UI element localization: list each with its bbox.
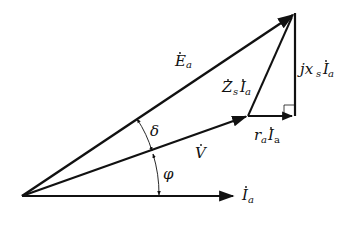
svg-text:a: a	[261, 134, 267, 145]
right-angle-marker	[284, 105, 295, 116]
label-phi: φ	[163, 165, 174, 183]
svg-text:jx: jx	[297, 60, 314, 78]
label-ra-ia: r a I a	[254, 126, 280, 145]
phasor-diagram: E a Z s I a jx s I a r a I a V δ φ I a	[0, 0, 346, 225]
phasor-v	[22, 117, 246, 197]
svg-text:V: V	[195, 144, 208, 162]
svg-text:a: a	[248, 194, 254, 205]
label-zs-ia: Z s I a	[221, 78, 251, 97]
phasor-zs-ia	[248, 17, 292, 116]
svg-text:E: E	[174, 52, 186, 70]
label-jxs-ia: jx s I a	[297, 60, 334, 79]
label-ea: E a	[174, 52, 192, 70]
svg-text:a: a	[186, 59, 192, 70]
svg-text:a: a	[274, 134, 280, 145]
label-ia: I a	[241, 186, 254, 205]
svg-text:a: a	[245, 86, 251, 97]
phi-arc	[153, 154, 159, 195]
svg-text:a: a	[328, 68, 334, 79]
svg-text:s: s	[316, 68, 321, 79]
svg-text:Z: Z	[221, 78, 233, 96]
svg-text:s: s	[233, 86, 238, 97]
label-v: V	[195, 144, 208, 162]
label-delta: δ	[150, 122, 159, 140]
